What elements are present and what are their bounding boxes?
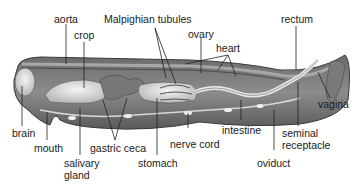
label-ovary: ovary: [188, 29, 214, 40]
label-aorta: aorta: [54, 14, 78, 25]
head: [15, 68, 35, 96]
label-mouth: mouth: [34, 143, 63, 154]
label-heart: heart: [216, 43, 240, 54]
label-salivary-line1: salivary: [64, 158, 100, 169]
label-nerve-cord: nerve cord: [170, 139, 220, 150]
label-seminal-line1: seminal: [282, 128, 318, 139]
label-intestine: intestine: [222, 125, 261, 136]
label-stomach: stomach: [138, 158, 178, 169]
label-oviduct: oviduct: [257, 158, 290, 169]
label-brain: brain: [12, 128, 35, 139]
label-seminal-line2: receptacle: [282, 140, 330, 151]
label-salivary-line2: gland: [64, 170, 90, 181]
label-malpighian-tubules: Malpighian tubules: [104, 14, 192, 25]
label-rectum: rectum: [281, 14, 313, 25]
label-vagina: vagina: [318, 99, 349, 110]
label-gastric-ceca: gastric ceca: [90, 143, 146, 154]
insect-anatomy-diagram: [0, 0, 361, 189]
label-crop: crop: [74, 30, 94, 41]
